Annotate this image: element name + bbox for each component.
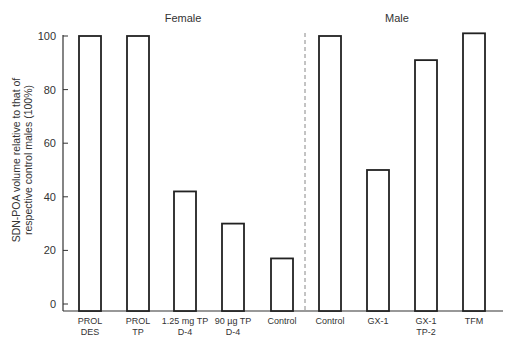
bar bbox=[463, 33, 485, 311]
bar bbox=[174, 191, 196, 311]
bars bbox=[79, 33, 485, 311]
bar bbox=[367, 170, 389, 311]
y-tick-label: 40 bbox=[30, 191, 56, 203]
category-label: TFM bbox=[439, 316, 509, 327]
bar-chart bbox=[0, 0, 515, 347]
bar bbox=[79, 36, 101, 311]
bar bbox=[415, 60, 437, 311]
bar bbox=[127, 36, 149, 311]
y-tick-label: 80 bbox=[30, 84, 56, 96]
y-tick-label: 60 bbox=[30, 137, 56, 149]
bar bbox=[271, 258, 293, 311]
bar bbox=[319, 36, 341, 311]
y-ticks bbox=[63, 36, 68, 304]
bar bbox=[222, 224, 244, 311]
cropped-caption bbox=[10, 341, 510, 347]
y-tick-label: 20 bbox=[30, 244, 56, 256]
y-axis-label-line1: SDN-POA volume relative to that of bbox=[10, 60, 22, 260]
y-tick-label: 100 bbox=[30, 30, 56, 42]
group-label-male: Male bbox=[385, 12, 409, 24]
y-tick-label: 0 bbox=[30, 298, 56, 310]
group-label-female: Female bbox=[165, 12, 202, 24]
